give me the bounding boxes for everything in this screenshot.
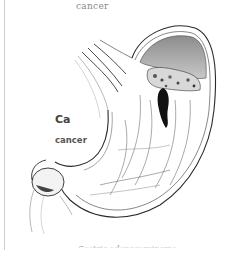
illustration-frame: cancer Ca cancer Gastric adenocarcinoma [0, 0, 227, 253]
label-side-cancer: cancer [55, 135, 87, 145]
stomach-illustration [0, 0, 227, 253]
esophagus [75, 40, 132, 118]
pylorus [30, 160, 72, 234]
rugae-lines [90, 95, 190, 195]
tumor-mass [147, 67, 200, 128]
label-top-cancer: cancer [76, 1, 109, 11]
label-ca: Ca [55, 113, 71, 126]
